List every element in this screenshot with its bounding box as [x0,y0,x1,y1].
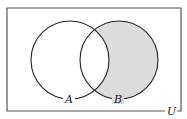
set-b-label: B [113,93,122,106]
set-a-label: A [64,93,73,106]
venn-diagram: A B U [0,0,187,119]
universe-label: U [167,105,177,118]
